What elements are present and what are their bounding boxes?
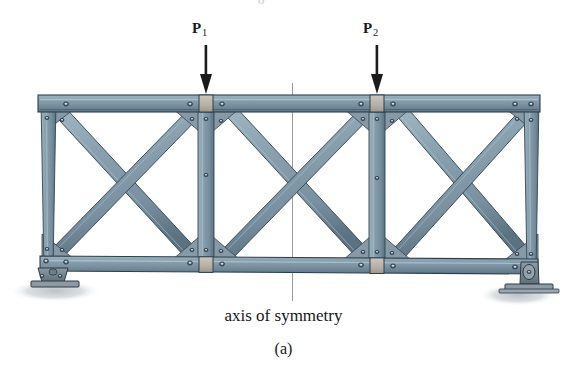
bottom-chord [40, 256, 538, 274]
load-subscript-p2: 2 [373, 27, 378, 38]
vertical-left-end [41, 100, 56, 270]
top-chord [38, 95, 540, 112]
figure-part-caption: (a) [0, 340, 567, 358]
splice-plate-top-p1 [199, 95, 213, 112]
cropped-top-glyph: o [258, 0, 298, 6]
axis-of-symmetry-caption: axis of symmetry [0, 306, 567, 326]
load-label-p1: P1 [192, 20, 207, 37]
load-symbol-p2: P [363, 20, 372, 36]
load-symbol-p1: P [192, 20, 201, 36]
vertical-right-end [524, 100, 539, 270]
load-arrows [200, 45, 383, 94]
load-arrow-p2 [371, 45, 383, 94]
support-shadows [9, 280, 558, 306]
splice-plate-bottom-p1 [199, 257, 213, 273]
load-subscript-p1: 1 [202, 27, 207, 38]
splice-plate-bottom-p2 [370, 258, 384, 274]
vertical-p1 [198, 100, 214, 270]
load-arrow-p1 [200, 45, 212, 94]
vertical-p2 [369, 100, 385, 270]
load-label-p2: P2 [363, 20, 378, 37]
splice-plate-top-p2 [370, 95, 384, 112]
